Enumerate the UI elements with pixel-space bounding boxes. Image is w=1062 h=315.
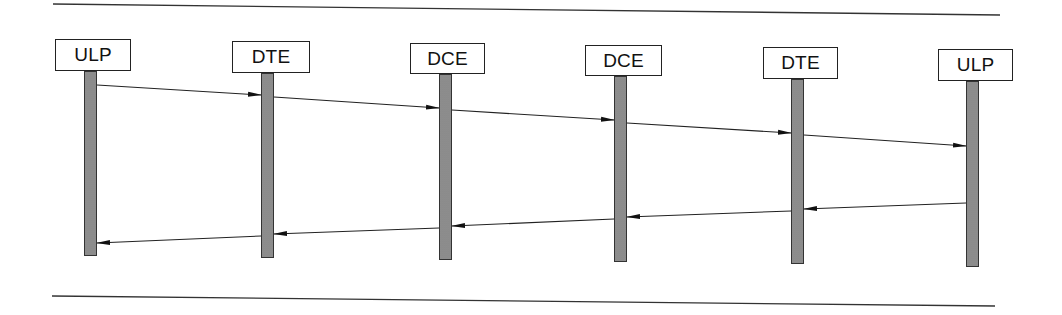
lifeline-ulp2 bbox=[966, 81, 979, 267]
message-arrow-dte2-to-dce2 bbox=[627, 211, 791, 217]
message-arrow-dce2-to-dce1 bbox=[452, 219, 614, 226]
sequence-diagram: ULPDTEDCEDCEDTEULP bbox=[0, 0, 1062, 315]
entity-box-dce2: DCE bbox=[585, 45, 662, 76]
message-arrow-dce2-to-dte2 bbox=[627, 123, 791, 133]
top-rule bbox=[53, 4, 1000, 15]
message-arrow-ulp1-to-dte1 bbox=[97, 85, 261, 95]
message-arrow-dte2-to-ulp2 bbox=[804, 135, 966, 146]
message-arrow-dce1-to-dte1 bbox=[274, 228, 439, 234]
message-arrow-dte1-to-dce1 bbox=[274, 97, 439, 108]
lifeline-dte2 bbox=[791, 79, 804, 264]
lifeline-dce2 bbox=[614, 76, 627, 262]
entity-box-ulp2: ULP bbox=[938, 49, 1013, 81]
entity-box-ulp1: ULP bbox=[55, 39, 131, 71]
entity-box-dte2: DTE bbox=[763, 47, 838, 79]
message-arrow-ulp2-to-dte2 bbox=[804, 203, 966, 209]
lifeline-ulp1 bbox=[84, 71, 97, 256]
bottom-rule bbox=[52, 296, 995, 306]
entity-box-dte1: DTE bbox=[232, 41, 310, 73]
message-arrow-dce1-to-dce2 bbox=[452, 110, 614, 120]
message-arrows bbox=[97, 85, 966, 243]
lifeline-dce1 bbox=[439, 74, 452, 260]
lifeline-dte1 bbox=[261, 73, 274, 258]
entity-box-dce1: DCE bbox=[410, 43, 485, 74]
message-arrow-dte1-to-ulp1 bbox=[97, 236, 261, 243]
diagram-lines bbox=[0, 0, 1062, 315]
